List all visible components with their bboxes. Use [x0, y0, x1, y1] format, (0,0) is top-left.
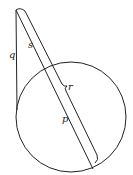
secant-line: [16, 10, 93, 169]
label-r: r: [68, 81, 74, 92]
label-s: s: [28, 39, 33, 50]
circle: [16, 62, 126, 172]
geometry-diagram: q s r p: [0, 0, 133, 175]
tangent-segment-q: [16, 10, 17, 110]
bracket-r: [16, 9, 98, 163]
label-p: p: [62, 113, 69, 124]
label-q: q: [9, 49, 15, 60]
